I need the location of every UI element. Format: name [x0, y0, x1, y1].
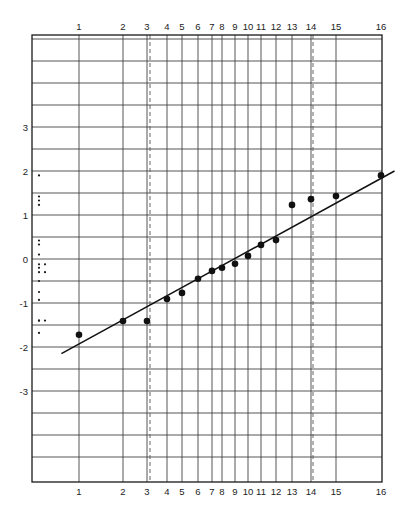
marginal-dot	[38, 204, 40, 206]
marginal-dot	[38, 243, 40, 245]
x-tick-label: 3	[144, 21, 149, 32]
y-tick-label: -2	[20, 342, 28, 353]
data-point	[164, 296, 171, 303]
marginal-dot-plot	[38, 174, 46, 334]
marginal-dot	[44, 320, 46, 322]
x-tick-label: 12	[271, 21, 282, 32]
y-tick-label: 2	[23, 166, 28, 177]
y-tick-label: -3	[20, 386, 28, 397]
x-tick-label: 12	[271, 486, 282, 497]
data-point	[209, 268, 216, 275]
x-axis-labels-bottom: 12345678910111213141516	[76, 486, 386, 497]
data-point	[144, 318, 151, 325]
x-tick-label: 1	[76, 486, 81, 497]
x-tick-label: 10	[243, 21, 254, 32]
data-point	[245, 253, 252, 260]
data-point	[273, 237, 280, 244]
x-tick-label: 15	[331, 486, 342, 497]
data-point	[378, 172, 385, 179]
data-point	[289, 202, 296, 209]
marginal-dot	[38, 239, 40, 241]
data-point	[258, 242, 265, 249]
data-point	[232, 261, 239, 268]
data-point	[219, 265, 226, 272]
marginal-dot	[38, 320, 40, 322]
x-tick-label: 4	[164, 21, 169, 32]
x-tick-label: 6	[195, 21, 200, 32]
data-points	[76, 172, 385, 338]
data-point	[308, 196, 315, 203]
data-point	[120, 318, 127, 325]
x-tick-label: 7	[209, 486, 214, 497]
x-tick-label: 7	[209, 21, 214, 32]
data-point	[333, 193, 340, 200]
y-axis-labels: 3210-1-2-3	[20, 122, 28, 397]
marginal-dot	[38, 199, 40, 201]
x-tick-label: 5	[179, 486, 184, 497]
fit-line	[61, 171, 394, 354]
horizontal-gridlines	[32, 39, 382, 457]
marginal-dot	[38, 332, 40, 334]
marginal-dot	[38, 280, 40, 282]
x-tick-label: 14	[306, 21, 317, 32]
y-tick-label: -1	[20, 298, 28, 309]
plot-frame	[32, 35, 382, 482]
marginal-dot	[38, 254, 40, 256]
vertical-gridlines	[79, 35, 336, 482]
x-tick-label: 1	[76, 21, 81, 32]
data-point	[179, 290, 186, 297]
x-tick-label: 9	[232, 21, 237, 32]
marginal-dot	[38, 299, 40, 301]
x-tick-label: 16	[376, 486, 387, 497]
marginal-dot	[44, 271, 46, 273]
x-tick-label: 3	[144, 486, 149, 497]
x-tick-label: 5	[179, 21, 184, 32]
x-axis-labels-top: 12345678910111213141516	[76, 21, 386, 32]
data-point	[195, 276, 202, 283]
marginal-dot	[38, 267, 40, 269]
y-tick-label: 1	[23, 210, 28, 221]
x-tick-label: 14	[306, 486, 317, 497]
x-tick-label: 10	[243, 486, 254, 497]
normal-probability-plot: 12345678910111213141516 1234567891011121…	[0, 0, 411, 517]
marginal-dot	[38, 174, 40, 176]
marginal-dot	[38, 291, 40, 293]
y-tick-label: 0	[23, 254, 28, 265]
x-tick-label: 6	[195, 486, 200, 497]
x-tick-label: 15	[331, 21, 342, 32]
x-tick-label: 11	[256, 21, 266, 32]
marginal-dot	[38, 195, 40, 197]
marginal-dot	[44, 263, 46, 265]
x-tick-label: 16	[376, 21, 387, 32]
data-point	[76, 331, 83, 338]
x-tick-label: 8	[219, 21, 224, 32]
marginal-dot	[38, 263, 40, 265]
x-tick-label: 8	[219, 486, 224, 497]
marginal-dot	[38, 271, 40, 273]
x-tick-label: 2	[120, 21, 125, 32]
y-tick-label: 3	[23, 122, 28, 133]
x-tick-label: 13	[287, 486, 298, 497]
x-tick-label: 9	[232, 486, 237, 497]
x-tick-label: 2	[120, 486, 125, 497]
dashed-reference-lines	[150, 35, 313, 482]
x-tick-label: 11	[256, 486, 266, 497]
x-tick-label: 4	[164, 486, 169, 497]
x-tick-label: 13	[287, 21, 298, 32]
